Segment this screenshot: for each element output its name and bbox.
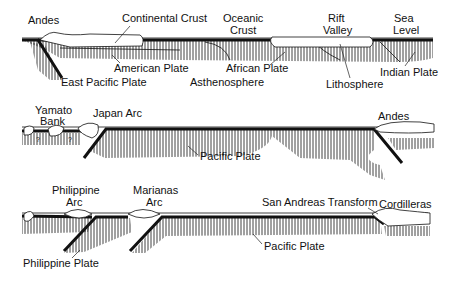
label-rift-valley-2: Valley bbox=[323, 24, 353, 36]
label-san-andreas-transform: San Andreas Transform bbox=[262, 196, 378, 208]
label-american-plate: American Plate bbox=[114, 62, 189, 74]
panel-middle: Yamato Bank Japan Arc ? ? Pacific Plate … bbox=[22, 104, 434, 180]
label-cordilleras: Cordilleras bbox=[379, 198, 432, 210]
continental-crust-rift bbox=[271, 37, 373, 47]
label-andes: Andes bbox=[28, 14, 60, 26]
label-lithosphere: Lithosphere bbox=[326, 78, 384, 90]
label-yamato-bank-2: Bank bbox=[40, 115, 66, 127]
andes-crust-middle bbox=[374, 122, 434, 133]
label-pacific-plate: Pacific Plate bbox=[200, 150, 261, 162]
label-oceanic-crust-2: Crust bbox=[230, 24, 256, 36]
label-rift-valley-1: Rift bbox=[328, 12, 345, 24]
panel-top: Andes Continental Crust Oceanic Crust Ri… bbox=[22, 12, 438, 90]
label-pacific-plate-bottom: Pacific Plate bbox=[264, 240, 325, 252]
label-philippine-arc-2: Arc bbox=[66, 196, 83, 208]
panel-bottom: Philippine Arc Marianas Arc San Andreas … bbox=[22, 184, 432, 269]
unknown-mark-2: ? bbox=[68, 136, 72, 143]
label-continental-crust: Continental Crust bbox=[122, 12, 207, 24]
label-indian-plate: Indian Plate bbox=[380, 66, 438, 78]
unknown-mark-1: ? bbox=[36, 136, 40, 143]
plate-tectonics-diagram: Andes Continental Crust Oceanic Crust Ri… bbox=[0, 0, 456, 284]
pacific-plate-hatch-bottom bbox=[132, 218, 382, 253]
label-philippine-plate: Philippine Plate bbox=[23, 257, 99, 269]
label-philippine-arc-1: Philippine bbox=[52, 184, 100, 196]
label-sea-level-1: Sea bbox=[394, 12, 414, 24]
japan-arc-crust bbox=[78, 123, 98, 138]
label-oceanic-crust-1: Oceanic bbox=[223, 12, 264, 24]
label-marianas-arc-2: Arc bbox=[146, 196, 163, 208]
label-sea-level-2: Level bbox=[393, 24, 419, 36]
label-japan-arc: Japan Arc bbox=[93, 107, 142, 119]
label-african-plate: African Plate bbox=[226, 62, 288, 74]
label-andes: Andes bbox=[378, 110, 410, 122]
label-asthenosphere: Asthenosphere bbox=[190, 76, 264, 88]
marianas-arc-crust bbox=[128, 210, 160, 219]
label-marianas-arc-1: Marianas bbox=[133, 184, 179, 196]
label-east-pacific-plate: East Pacific Plate bbox=[61, 76, 147, 88]
